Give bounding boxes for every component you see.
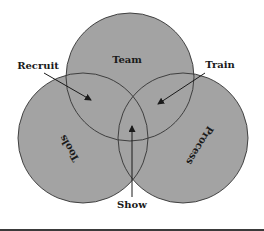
venn-svg: Team Tools Process Recruit Train Show [0,0,264,231]
recruit-label: Recruit [17,60,59,71]
process-circle [118,73,248,203]
venn-diagram: Team Tools Process Recruit Train Show [0,0,264,231]
train-label: Train [205,59,235,70]
circle-fills [18,13,248,203]
team-label: Team [112,54,142,65]
show-label: Show [117,199,147,210]
bottom-divider [0,229,264,231]
